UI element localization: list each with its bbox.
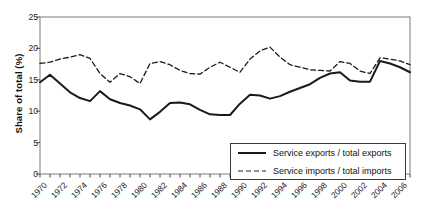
legend-label-service-imports: Service imports / total imports bbox=[273, 166, 392, 176]
series-line-imports bbox=[40, 47, 410, 83]
legend-item-service-exports: Service exports / total exports bbox=[231, 144, 405, 162]
legend-item-service-imports: Service imports / total imports bbox=[231, 162, 405, 180]
legend-key-dashed-line bbox=[237, 166, 267, 176]
chart-legend: Service exports / total exports Service … bbox=[230, 143, 406, 180]
legend-key-solid-line bbox=[237, 148, 267, 158]
chart-container: Share of total (%) 0510152025 1970197219… bbox=[0, 0, 423, 223]
series-line-exports bbox=[40, 61, 410, 119]
legend-label-service-exports: Service exports / total exports bbox=[273, 148, 392, 158]
